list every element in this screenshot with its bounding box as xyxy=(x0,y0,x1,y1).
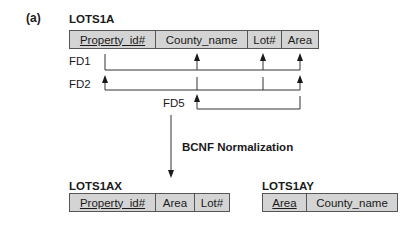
relation-lots1ax: Property_id# Area Lot# xyxy=(69,193,230,212)
attribute-cell: Area xyxy=(156,194,195,211)
attribute-cell: County_name xyxy=(307,194,397,211)
attribute-cell: Lot# xyxy=(195,194,229,211)
relation-title-lots1ay: LOTS1AY xyxy=(262,180,314,192)
attribute-cell: Area xyxy=(263,194,307,211)
attribute-label: Lot# xyxy=(201,197,223,209)
relation-title-lots1ax: LOTS1AX xyxy=(69,180,122,192)
primary-key-attribute: Area xyxy=(272,197,296,209)
primary-key-attribute: Property_id# xyxy=(80,197,145,209)
bcnf-normalization-label: BCNF Normalization xyxy=(182,141,293,153)
attribute-label: County_name xyxy=(316,197,388,209)
relation-lots1ay: Area County_name xyxy=(262,193,398,212)
attribute-cell: Property_id# xyxy=(70,194,156,211)
attribute-label: Area xyxy=(163,197,187,209)
